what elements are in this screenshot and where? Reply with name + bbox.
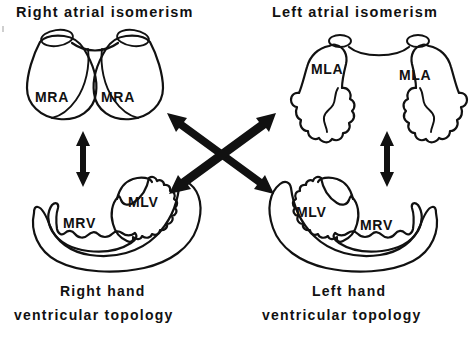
mla-left-internal-stalk — [324, 88, 338, 132]
mla-left-orifice — [329, 35, 351, 47]
arrow-right-vertical-shape — [380, 131, 394, 187]
right-atrial-isomerism-group — [27, 28, 163, 119]
mla-appendage-left-outline — [291, 45, 354, 143]
mla-right-internal-stalk — [420, 88, 434, 132]
interatrial-bridge-left-isomerism — [349, 47, 409, 55]
label-mra-left: MRA — [35, 89, 69, 105]
caption-right-hand-line2: ventricular topology — [14, 307, 174, 323]
label-mla-left: MLA — [311, 61, 343, 77]
label-mrv-right-hand-topology: MRV — [63, 215, 96, 231]
scan-artifact — [2, 26, 4, 32]
mra-left-medial-wall — [52, 49, 89, 118]
caption-right-hand-line1: Right hand — [60, 283, 146, 299]
label-mlv-right-hand-topology: MLV — [128, 194, 159, 210]
mla-appendage-right-outline — [404, 45, 467, 143]
mla-right-orifice — [407, 35, 429, 47]
connector-right-vertical — [380, 131, 394, 187]
left-atrial-isomerism-group — [291, 35, 467, 142]
title-right-atrial-isomerism: Right atrial isomerism — [16, 4, 194, 20]
left-hand-topology-group — [269, 177, 437, 272]
label-mla-right: MLA — [399, 67, 431, 83]
label-mrv-left-hand-topology: MRV — [360, 217, 393, 233]
title-left-atrial-isomerism: Left atrial isomerism — [272, 4, 438, 20]
label-mra-right: MRA — [101, 89, 135, 105]
figure-canvas: Right atrial isomerism Left atrial isome… — [0, 0, 470, 337]
caption-left-hand-line2: ventricular topology — [262, 307, 422, 323]
label-mlv-left-hand-topology: MLV — [296, 204, 327, 220]
connector-left-vertical — [76, 131, 90, 187]
arrow-left-vertical-shape — [76, 131, 90, 187]
cardiac-isomerism-figure: Right atrial isomerism Left atrial isome… — [0, 0, 470, 337]
caption-left-hand-line1: Left hand — [312, 283, 386, 299]
mra-right-medial-wall — [102, 49, 139, 118]
